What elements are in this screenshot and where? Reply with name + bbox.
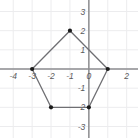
vertex-point [30, 67, 34, 71]
x-tick-label: -2 [47, 71, 55, 81]
y-tick-label: -1 [78, 83, 86, 93]
vertex-point [68, 29, 72, 33]
x-tick-label: -4 [9, 71, 17, 81]
y-tick-label: 3 [81, 7, 86, 17]
coordinate-plane-svg: -4-3-2-102321-1-2-3 [0, 0, 138, 138]
x-tick-label: 2 [123, 71, 129, 81]
vertex-point [106, 67, 110, 71]
vertex-point [87, 105, 91, 109]
chart-figure: -4-3-2-102321-1-2-3 [0, 0, 138, 138]
x-tick-label: 0 [86, 71, 91, 81]
vertex-point [49, 105, 53, 109]
y-tick-label: -3 [78, 122, 86, 132]
y-tick-label: 2 [80, 26, 86, 36]
x-tick-label: -1 [66, 71, 74, 81]
